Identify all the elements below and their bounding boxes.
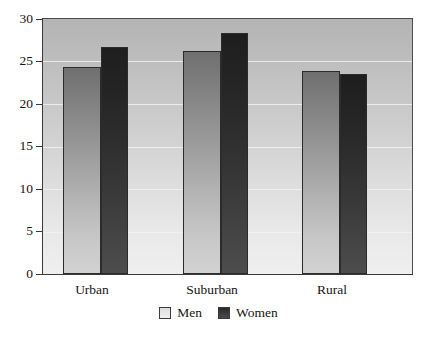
- x-axis-label-rural: Rural: [292, 282, 372, 298]
- y-axis-label-20: 20: [0, 97, 33, 111]
- bar-urban-men: [63, 67, 101, 274]
- plot-area: [42, 18, 413, 275]
- bar-suburban-men: [183, 51, 221, 274]
- legend-swatch-men-icon: [159, 307, 171, 319]
- bar-suburban-women: [221, 33, 248, 274]
- y-tick-10: [36, 189, 42, 190]
- legend-item-women: Women: [218, 306, 278, 320]
- y-tick-30: [36, 19, 42, 20]
- y-tick-0: [36, 274, 42, 275]
- x-axis-line: [42, 274, 413, 275]
- x-axis-label-suburban: Suburban: [172, 282, 252, 298]
- bar-rural-women: [340, 74, 367, 274]
- y-tick-5: [36, 231, 42, 232]
- legend-swatch-women-icon: [218, 307, 230, 319]
- y-axis-label-10: 10: [0, 182, 33, 196]
- y-tick-25: [36, 61, 42, 62]
- legend-label-women: Women: [236, 306, 278, 320]
- chart-legend: Men Women: [0, 306, 437, 320]
- y-axis-label-5: 5: [0, 224, 33, 238]
- y-axis-label-30: 30: [0, 12, 33, 26]
- legend-item-men: Men: [159, 306, 202, 320]
- y-tick-15: [36, 146, 42, 147]
- bar-rural-men: [302, 71, 340, 274]
- grouped-bar-chart: 30 25 20 15 10 5 0 Urban Suburban Rural …: [0, 0, 437, 339]
- y-axis-label-25: 25: [0, 54, 33, 68]
- y-axis-label-0: 0: [0, 267, 33, 281]
- x-axis-label-urban: Urban: [52, 282, 132, 298]
- bar-urban-women: [101, 47, 128, 274]
- legend-label-men: Men: [177, 306, 202, 320]
- y-axis-label-15: 15: [0, 139, 33, 153]
- y-tick-20: [36, 104, 42, 105]
- y-axis-line: [42, 18, 43, 275]
